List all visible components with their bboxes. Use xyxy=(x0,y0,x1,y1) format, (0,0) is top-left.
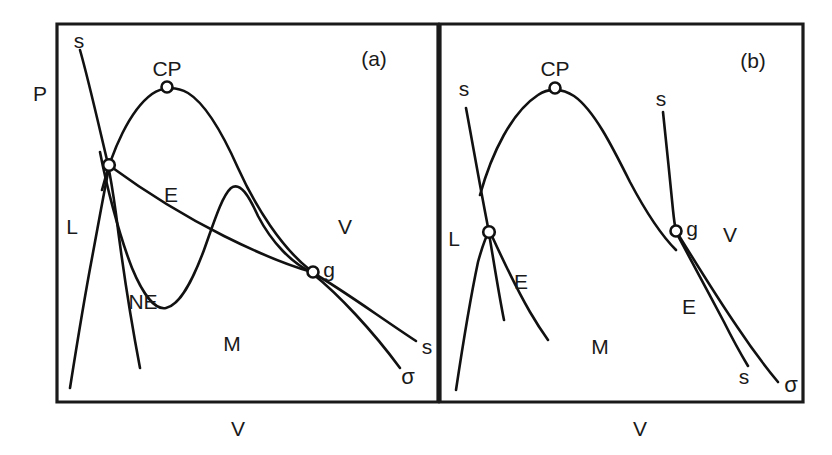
panel-a-intersection-point-marker xyxy=(103,159,115,171)
panel-b-panel-label: (b) xyxy=(740,49,766,72)
panel-a-y-axis-label: P xyxy=(33,82,47,105)
panel-b-spinodal-s-upper-right-curve xyxy=(663,112,676,230)
panel-a-x-axis-label: V xyxy=(231,417,245,440)
panel-a-label-ne: NE xyxy=(128,290,157,313)
panel-b-label-s-lower-right: s xyxy=(739,365,750,388)
phase-diagram-figure: P V (a) s CP E L NE V M g s σ xyxy=(0,0,832,455)
panel-a-equilibrium-curve xyxy=(110,166,312,272)
panel-b-label-s-left: s xyxy=(459,77,470,100)
panel-a-label-s-right: s xyxy=(422,335,433,358)
panel-b-label-cp: CP xyxy=(540,57,569,80)
panel-b-label-s-upper-right: s xyxy=(656,87,667,110)
panel-b-liquid-branch-curve xyxy=(456,230,490,390)
panel-b-x-axis-label: V xyxy=(633,417,647,440)
panel-a-label-l: L xyxy=(66,215,78,238)
panel-b-label-g: g xyxy=(686,217,698,240)
panel-a-label-m: M xyxy=(223,332,241,355)
panel-b-binodal-dome-curve xyxy=(480,90,676,250)
panel-b-intersection-point-marker xyxy=(483,226,495,238)
panel-a-label-e: E xyxy=(164,183,178,206)
panel-b-critical-point-marker xyxy=(550,83,561,94)
panel-b-label-m: M xyxy=(591,335,609,358)
panel-a-label-cp: CP xyxy=(152,57,181,80)
panel-b-label-sigma: σ xyxy=(784,372,798,397)
panel-a-spinodal-s-left-curve xyxy=(80,50,140,368)
panel-a-panel-label: (a) xyxy=(361,47,387,70)
panel-a-critical-point-marker xyxy=(162,82,173,93)
panel-b-label-v: V xyxy=(723,223,737,246)
panel-a-label-v: V xyxy=(338,215,352,238)
panel-a-g-point-marker xyxy=(308,267,319,278)
panel-a-label-s-top: s xyxy=(74,29,85,52)
panel-a-label-sigma: σ xyxy=(401,364,415,389)
panel-a: P V (a) s CP E L NE V M g s σ xyxy=(33,24,438,440)
phase-diagram-svg: P V (a) s CP E L NE V M g s σ xyxy=(0,0,832,455)
panel-b: V (b) s CP L E s g V E M s σ xyxy=(440,24,803,440)
panel-a-spinodal-s-right-curve xyxy=(313,273,416,341)
panel-b-g-point-marker xyxy=(671,226,682,237)
panel-b-label-l: L xyxy=(448,227,460,250)
panel-a-vdw-loop-curve xyxy=(100,152,311,308)
panel-a-liquid-branch-curve xyxy=(70,168,109,388)
panel-b-label-e-right: E xyxy=(682,295,696,318)
panel-a-label-g: g xyxy=(323,258,335,281)
panel-b-label-e-left: E xyxy=(514,270,528,293)
